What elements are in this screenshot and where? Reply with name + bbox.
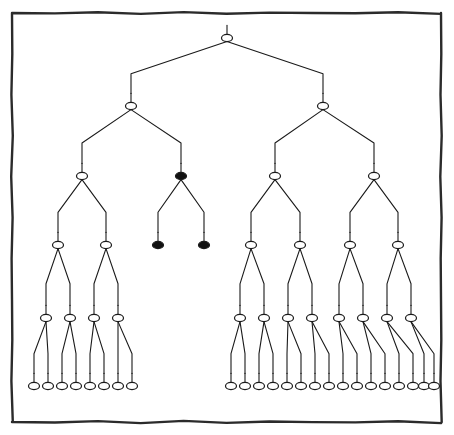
node-marker-open[interactable] bbox=[307, 314, 318, 321]
node-marker-open[interactable] bbox=[283, 314, 294, 321]
tree-node[interactable] bbox=[366, 373, 377, 389]
tree-node[interactable] bbox=[199, 232, 210, 248]
node-marker-filled[interactable] bbox=[176, 172, 187, 179]
node-marker-open[interactable] bbox=[310, 382, 321, 389]
tree-node[interactable] bbox=[345, 232, 356, 248]
tree-node[interactable] bbox=[126, 93, 137, 109]
tree-node[interactable] bbox=[53, 232, 64, 248]
node-marker-open[interactable] bbox=[366, 382, 377, 389]
node-marker-open[interactable] bbox=[29, 382, 40, 389]
tree-node[interactable] bbox=[99, 373, 110, 389]
node-marker-open[interactable] bbox=[53, 241, 64, 248]
node-marker-filled[interactable] bbox=[153, 241, 164, 248]
node-marker-open[interactable] bbox=[324, 382, 335, 389]
node-marker-open[interactable] bbox=[240, 382, 251, 389]
tree-node[interactable] bbox=[113, 305, 124, 321]
node-marker-open[interactable] bbox=[334, 314, 345, 321]
tree-node[interactable] bbox=[127, 373, 138, 389]
tree-node[interactable] bbox=[318, 93, 329, 109]
tree-node[interactable] bbox=[71, 373, 82, 389]
node-marker-open[interactable] bbox=[268, 382, 279, 389]
node-marker-open[interactable] bbox=[43, 382, 54, 389]
tree-node[interactable] bbox=[89, 305, 100, 321]
node-marker-open[interactable] bbox=[126, 102, 137, 109]
tree-node[interactable] bbox=[57, 373, 68, 389]
node-marker-open[interactable] bbox=[57, 382, 68, 389]
tree-node[interactable] bbox=[246, 232, 257, 248]
tree-node[interactable] bbox=[283, 305, 294, 321]
tree-node[interactable] bbox=[43, 373, 54, 389]
node-marker-open[interactable] bbox=[382, 314, 393, 321]
tree-node[interactable] bbox=[419, 373, 430, 389]
tree-node[interactable] bbox=[393, 232, 404, 248]
node-marker-filled[interactable] bbox=[199, 241, 210, 248]
node-marker-open[interactable] bbox=[408, 382, 419, 389]
tree-node[interactable] bbox=[29, 373, 40, 389]
node-marker-open[interactable] bbox=[270, 172, 281, 179]
tree-node[interactable] bbox=[324, 373, 335, 389]
tree-node[interactable] bbox=[113, 373, 124, 389]
tree-node[interactable] bbox=[282, 373, 293, 389]
node-marker-open[interactable] bbox=[127, 382, 138, 389]
node-marker-open[interactable] bbox=[77, 172, 88, 179]
node-marker-open[interactable] bbox=[394, 382, 405, 389]
tree-node[interactable] bbox=[222, 25, 233, 41]
tree-node[interactable] bbox=[352, 373, 363, 389]
tree-node[interactable] bbox=[268, 373, 279, 389]
tree-node[interactable] bbox=[259, 305, 270, 321]
tree-node[interactable] bbox=[296, 373, 307, 389]
tree-node[interactable] bbox=[429, 373, 440, 389]
tree-node[interactable] bbox=[295, 232, 306, 248]
node-marker-open[interactable] bbox=[406, 314, 417, 321]
tree-node[interactable] bbox=[65, 305, 76, 321]
tree-node[interactable] bbox=[406, 305, 417, 321]
tree-node[interactable] bbox=[380, 373, 391, 389]
tree-node[interactable] bbox=[334, 305, 345, 321]
node-marker-open[interactable] bbox=[295, 241, 306, 248]
tree-node[interactable] bbox=[77, 163, 88, 179]
node-marker-open[interactable] bbox=[429, 382, 440, 389]
node-marker-open[interactable] bbox=[318, 102, 329, 109]
node-marker-open[interactable] bbox=[226, 382, 237, 389]
tree-node[interactable] bbox=[358, 305, 369, 321]
node-marker-open[interactable] bbox=[338, 382, 349, 389]
node-marker-open[interactable] bbox=[99, 382, 110, 389]
node-marker-open[interactable] bbox=[419, 382, 430, 389]
tree-node[interactable] bbox=[307, 305, 318, 321]
tree-node[interactable] bbox=[235, 305, 246, 321]
tree-node[interactable] bbox=[101, 232, 112, 248]
node-marker-open[interactable] bbox=[235, 314, 246, 321]
node-marker-open[interactable] bbox=[113, 382, 124, 389]
tree-node[interactable] bbox=[369, 163, 380, 179]
node-marker-open[interactable] bbox=[282, 382, 293, 389]
tree-node[interactable] bbox=[153, 232, 164, 248]
node-marker-open[interactable] bbox=[113, 314, 124, 321]
tree-node[interactable] bbox=[254, 373, 265, 389]
tree-node[interactable] bbox=[41, 305, 52, 321]
node-marker-open[interactable] bbox=[246, 241, 257, 248]
tree-node[interactable] bbox=[240, 373, 251, 389]
node-marker-open[interactable] bbox=[85, 382, 96, 389]
node-marker-open[interactable] bbox=[296, 382, 307, 389]
node-marker-open[interactable] bbox=[393, 241, 404, 248]
node-marker-open[interactable] bbox=[101, 241, 112, 248]
tree-node[interactable] bbox=[408, 373, 419, 389]
node-marker-open[interactable] bbox=[345, 241, 356, 248]
node-marker-open[interactable] bbox=[65, 314, 76, 321]
node-marker-open[interactable] bbox=[259, 314, 270, 321]
node-marker-open[interactable] bbox=[222, 34, 233, 41]
tree-node[interactable] bbox=[382, 305, 393, 321]
tree-node[interactable] bbox=[176, 163, 187, 179]
node-marker-open[interactable] bbox=[41, 314, 52, 321]
node-marker-open[interactable] bbox=[380, 382, 391, 389]
tree-node[interactable] bbox=[338, 373, 349, 389]
tree-node[interactable] bbox=[394, 373, 405, 389]
tree-node[interactable] bbox=[310, 373, 321, 389]
node-marker-open[interactable] bbox=[254, 382, 265, 389]
node-marker-open[interactable] bbox=[71, 382, 82, 389]
node-marker-open[interactable] bbox=[369, 172, 380, 179]
node-marker-open[interactable] bbox=[89, 314, 100, 321]
tree-node[interactable] bbox=[85, 373, 96, 389]
node-marker-open[interactable] bbox=[352, 382, 363, 389]
tree-node[interactable] bbox=[270, 163, 281, 179]
